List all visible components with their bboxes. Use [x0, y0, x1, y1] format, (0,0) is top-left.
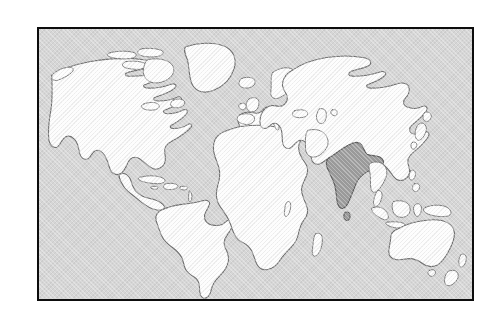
landmass-ireland	[239, 103, 246, 110]
landmass-borneo	[392, 201, 410, 218]
landmass-iceland	[239, 77, 255, 88]
landmass-arctic-archipelago-3	[122, 61, 146, 69]
landmass-baffin-island	[143, 59, 174, 83]
landmass-philippines-luzon	[409, 170, 415, 180]
landmass-arctic-archipelago-2	[138, 48, 164, 57]
landmass-new-guinea	[423, 205, 451, 216]
landmass-greenland	[184, 43, 235, 92]
landmass-south-america	[156, 200, 232, 298]
landmass-puerto-rico	[180, 186, 188, 190]
landmass-tasmania	[428, 270, 436, 277]
caspian-sea-detail	[316, 109, 326, 124]
landmass-arctic-archipelago-1	[107, 51, 136, 59]
landmass-british-isles	[246, 98, 259, 112]
landmass-new-zealand-north	[459, 254, 467, 267]
landmass-malay-peninsula	[374, 190, 383, 206]
landmass-sulawesi	[414, 204, 422, 217]
aral-sea-detail	[331, 110, 337, 116]
landmass-new-zealand-south	[445, 270, 459, 285]
landmass-lesser-antilles	[189, 191, 192, 202]
great-lakes-detail	[141, 102, 159, 110]
landmass-madagascar	[312, 233, 322, 256]
landmass-japan-hokkaido	[423, 112, 431, 121]
landmass-cuba	[138, 176, 165, 184]
map-page	[0, 0, 494, 323]
landmass-indochina	[369, 162, 387, 192]
world-map-svg	[39, 29, 472, 299]
landmass-jamaica	[150, 186, 157, 189]
landmass-sumatra	[372, 207, 389, 220]
black-sea-detail	[292, 110, 307, 118]
landmass-newfoundland	[171, 99, 185, 108]
world-map-frame	[37, 27, 474, 301]
landmass-japan-kyushu	[411, 142, 417, 149]
landmass-philippines-mindanao	[412, 183, 419, 191]
landmass-iberia	[237, 114, 254, 125]
landmass-hispaniola	[164, 183, 178, 189]
highlighted-region-sri-lanka	[344, 212, 350, 220]
